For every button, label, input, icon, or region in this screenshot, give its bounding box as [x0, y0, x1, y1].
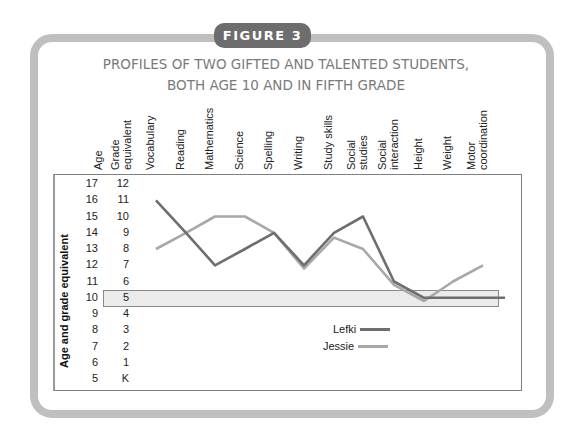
legend-swatch-jessie — [358, 345, 388, 348]
legend-swatch-lefki — [360, 328, 390, 331]
legend-label-jessie: Jessie — [323, 340, 354, 352]
legend-label-lefki: Lefki — [333, 323, 356, 335]
line-plot — [0, 0, 572, 433]
legend-item-jessie: Jessie — [323, 340, 388, 352]
series-jessie-line — [156, 217, 483, 302]
legend-item-lefki: Lefki — [333, 323, 390, 335]
